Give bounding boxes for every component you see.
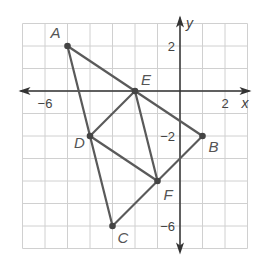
coordinate-plane: ABCDEF −622−2−6xy [0, 0, 258, 264]
x-tick-label: 2 [221, 96, 228, 111]
point-E [132, 88, 139, 95]
x-tick-label: −6 [38, 96, 53, 111]
point-label-D: D [74, 134, 85, 151]
y-tick-label: 2 [168, 39, 175, 54]
grid-lines [23, 24, 248, 249]
point-C [109, 223, 116, 230]
point-label-B: B [209, 138, 219, 155]
y-axis-label: y [185, 15, 194, 31]
y-tick-label: −6 [160, 219, 175, 234]
x-axis-label: x [241, 95, 250, 111]
y-tick-label: −2 [160, 129, 175, 144]
point-A [64, 43, 71, 50]
point-B [199, 133, 206, 140]
point-label-C: C [118, 229, 129, 246]
point-label-E: E [141, 71, 152, 88]
point-label-F: F [164, 186, 174, 203]
point-label-A: A [50, 24, 61, 41]
labeled-points: ABCDEF [50, 24, 219, 246]
point-F [154, 178, 161, 185]
point-D [87, 133, 94, 140]
